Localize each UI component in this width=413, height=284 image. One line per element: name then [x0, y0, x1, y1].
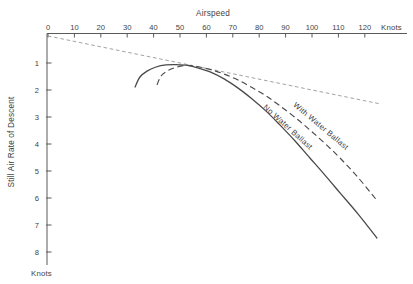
y-axis-unit-label: Knots: [31, 269, 52, 278]
glider-polar-figure: 010203040506070809010011012012345678 Air…: [0, 0, 413, 284]
x-tick-label: 40: [149, 23, 157, 32]
x-tick-label: 90: [281, 23, 289, 32]
y-tick-label: 6: [35, 194, 39, 203]
axes-layer: 010203040506070809010011012012345678: [35, 23, 407, 265]
y-tick-label: 2: [35, 86, 39, 95]
labels-layer: Airspeed Knots Still Air Rate of Descent…: [7, 9, 402, 278]
x-axis-unit-label: Knots: [381, 23, 402, 32]
glider-polar-chart: 010203040506070809010011012012345678 Air…: [0, 0, 413, 284]
y-axis-title: Still Air Rate of Descent: [7, 96, 16, 188]
x-tick-label: 0: [46, 23, 50, 32]
best-glide-tangent-curve: [48, 36, 381, 104]
x-tick-label: 30: [123, 23, 131, 32]
with-water-ballast-curve: [157, 65, 376, 199]
y-tick-label: 5: [35, 167, 39, 176]
x-tick-label: 80: [255, 23, 263, 32]
x-tick-label: 110: [332, 23, 344, 32]
x-tick-label: 20: [97, 23, 105, 32]
no-water-ballast-curve: [135, 65, 377, 238]
y-tick-label: 1: [35, 59, 39, 68]
x-axis-title: Airspeed: [196, 9, 230, 18]
x-tick-label: 10: [70, 23, 78, 32]
y-tick-label: 8: [35, 248, 39, 257]
y-tick-label: 4: [35, 140, 39, 149]
y-tick-label: 3: [35, 113, 39, 122]
x-tick-label: 100: [306, 23, 319, 32]
x-tick-label: 50: [176, 23, 184, 32]
y-tick-label: 7: [35, 221, 39, 230]
x-tick-label: 60: [202, 23, 210, 32]
x-tick-label: 70: [229, 23, 237, 32]
x-tick-label: 120: [358, 23, 371, 32]
